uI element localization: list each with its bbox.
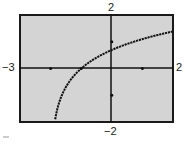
y-tick xyxy=(110,94,113,97)
x-tick xyxy=(141,67,144,70)
graph-window xyxy=(0,0,185,147)
x-tick xyxy=(49,67,52,70)
y-tick xyxy=(110,40,113,43)
